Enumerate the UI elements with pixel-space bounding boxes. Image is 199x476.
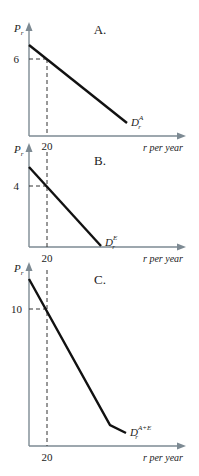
y-tick-label: 6 (14, 53, 20, 65)
y-axis-arrow-icon (26, 22, 33, 31)
panel-c: Pr 10 20 C. r per year DA+Er (11, 262, 186, 463)
x-axis-arrow-icon (177, 443, 186, 450)
x-axis-arrow-icon (177, 244, 186, 251)
y-axis-arrow-icon (26, 262, 33, 271)
y-axis-label: Pr (13, 22, 24, 37)
y-axis-label: Pr (13, 262, 24, 277)
x-axis-label: r per year (143, 452, 183, 463)
panel-title: B. (94, 153, 106, 168)
x-axis-label: r per year (143, 253, 183, 264)
x-axis-arrow-icon (177, 133, 186, 140)
y-tick-label: 10 (11, 303, 23, 315)
x-tick-label: 20 (42, 252, 54, 264)
curve-label: DAr (130, 114, 144, 131)
y-axis-label: Pr (13, 143, 24, 158)
curve-label: DA+Er (129, 424, 152, 441)
demand-curve-b (29, 167, 101, 246)
panel-b: Pr 4 20 B. r per year DEr (13, 143, 186, 264)
x-tick-label: 20 (42, 451, 54, 463)
demand-curve-a (29, 45, 127, 123)
panel-title: C. (94, 272, 106, 287)
y-axis-arrow-icon (26, 143, 33, 152)
y-tick-label: 4 (14, 180, 20, 192)
demand-charts: Pr 6 20 A. r per year DAr Pr 4 20 B. r p… (0, 0, 199, 476)
panel-a: Pr 6 20 A. r per year DAr (13, 22, 186, 153)
x-tick-label: 20 (42, 140, 54, 152)
x-axis-label: r per year (143, 142, 183, 153)
curve-label: DEr (104, 234, 118, 251)
demand-curve-c (29, 279, 126, 433)
panel-title: A. (94, 22, 107, 37)
